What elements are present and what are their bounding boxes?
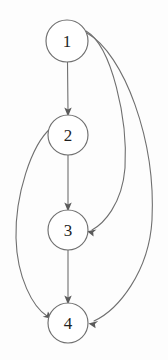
edge-2-to-4 [16,128,53,319]
graph-canvas: 1 2 3 4 [0,0,168,360]
edge-1-to-4-arrowhead [89,321,99,328]
edge-3-to-4 [64,250,71,305]
node-layer: 1 2 3 4 [46,20,88,343]
edge-layer [16,31,152,328]
directed-graph-figure: 1 2 3 4 [0,0,168,360]
edge-2-to-3 [64,155,71,212]
edge-1-to-4-path [87,33,152,321]
node-2-label: 2 [64,126,73,145]
edge-2-to-4-path [16,128,51,316]
edge-1-to-2 [64,62,71,117]
graph-node-1[interactable]: 1 [46,20,88,62]
edge-1-to-4 [87,33,152,328]
node-4-label: 4 [64,314,73,333]
graph-node-4[interactable]: 4 [48,303,88,343]
graph-node-2[interactable]: 2 [48,115,88,155]
node-1-label: 1 [63,32,72,51]
node-3-label: 3 [64,221,73,240]
edge-1-to-2-path [68,62,69,111]
edge-1-to-3 [86,31,125,236]
edge-1-to-3-path [86,31,125,230]
graph-node-3[interactable]: 3 [48,210,88,250]
